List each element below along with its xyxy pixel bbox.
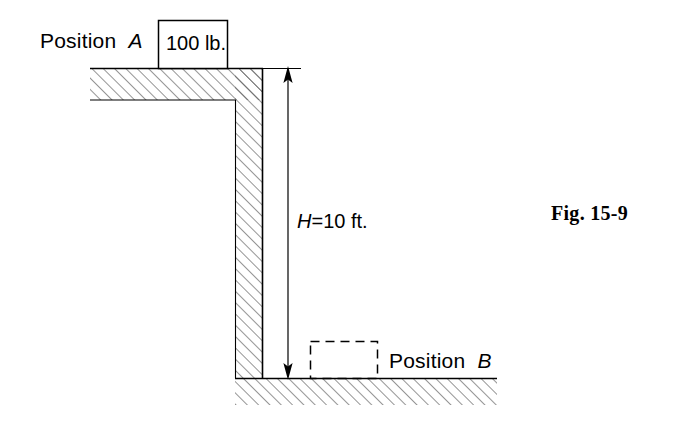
- lower-ground: [235, 379, 497, 406]
- height-variable: H: [297, 210, 311, 232]
- height-label: H=10 ft.: [297, 211, 368, 231]
- position-a-word: Position: [40, 29, 116, 52]
- position-b-point: B: [477, 349, 491, 372]
- figure-caption: Fig. 15-9: [551, 203, 628, 223]
- height-value: =10 ft.: [311, 210, 367, 232]
- figure-15-9: Position A 100 lb. H=10 ft. Position B F…: [0, 0, 681, 427]
- position-a-point: A: [128, 29, 142, 52]
- vertical-wall: [235, 68, 263, 378]
- position-b-label: Position B: [389, 350, 492, 371]
- height-dimension-arrow: [263, 66, 301, 380]
- position-b-word: Position: [389, 349, 465, 372]
- block-weight-label: 100 lb.: [166, 33, 226, 53]
- block-at-position-b: [311, 342, 378, 379]
- position-a-label: Position A: [40, 30, 143, 51]
